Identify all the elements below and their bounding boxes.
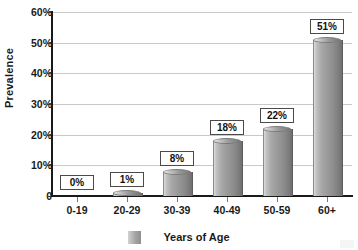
bar-group-0-19[interactable]: 0% <box>52 12 102 196</box>
bar-group-50-59[interactable]: 22% <box>252 12 302 196</box>
x-tick-mark-1 <box>127 197 128 202</box>
x-tick-label-20-29: 20-29 <box>102 204 152 216</box>
x-tick-label-50-59: 50-59 <box>252 204 302 216</box>
bar-label-60-plus: 51% <box>310 19 344 34</box>
bar-40-49[interactable] <box>213 141 243 196</box>
scan-artifact <box>340 240 354 248</box>
series-color-swatch-icon <box>128 231 141 244</box>
bar-group-30-39[interactable]: 8% <box>152 12 202 196</box>
bar-top-ellipse-50-59 <box>263 126 291 132</box>
bar-label-50-59: 22% <box>260 108 294 123</box>
x-tick-mark-0 <box>77 197 78 202</box>
bar-group-60-plus[interactable]: 51% <box>302 12 352 196</box>
chart-figure: Prevalence 60% 50% 40% 30% 20% 10% 0 0% <box>0 0 358 250</box>
x-tick-label-0-19: 0-19 <box>52 204 102 216</box>
bar-label-20-29: 1% <box>110 172 144 187</box>
bar-30-39[interactable] <box>163 172 193 197</box>
x-tick-label-30-39: 30-39 <box>152 204 202 216</box>
bar-label-30-39: 8% <box>160 151 194 166</box>
x-tick-label-40-49: 40-49 <box>202 204 252 216</box>
x-tick-mark-5 <box>327 197 328 202</box>
bar-50-59[interactable] <box>263 129 293 197</box>
legend-label-years-of-age: Years of Age <box>163 231 229 243</box>
x-tick-label-60-plus: 60+ <box>302 204 352 216</box>
chart-title-cropped <box>0 0 358 5</box>
x-tick-mark-2 <box>177 197 178 202</box>
y-axis-ticks: 60% 50% 40% 30% 20% 10% 0 <box>0 0 52 196</box>
x-axis-labels: 0-19 20-29 30-39 40-49 50-59 60+ <box>52 204 352 220</box>
bars-layer: 0% 1% 8% 18% 22% <box>52 12 352 196</box>
bar-top-ellipse-30-39 <box>163 169 191 175</box>
chart-legend: Years of Age <box>0 228 358 246</box>
bar-60-plus[interactable] <box>313 40 343 196</box>
bar-label-40-49: 18% <box>210 120 244 135</box>
x-tick-mark-3 <box>227 197 228 202</box>
bar-20-29[interactable] <box>113 193 143 196</box>
x-tick-mark-4 <box>277 197 278 202</box>
bar-top-ellipse-20-29 <box>113 190 141 196</box>
bar-top-ellipse-40-49 <box>213 138 241 144</box>
bar-top-ellipse-60-plus <box>313 37 341 43</box>
bar-label-0-19: 0% <box>60 175 94 190</box>
bar-group-40-49[interactable]: 18% <box>202 12 252 196</box>
bar-group-20-29[interactable]: 1% <box>102 12 152 196</box>
